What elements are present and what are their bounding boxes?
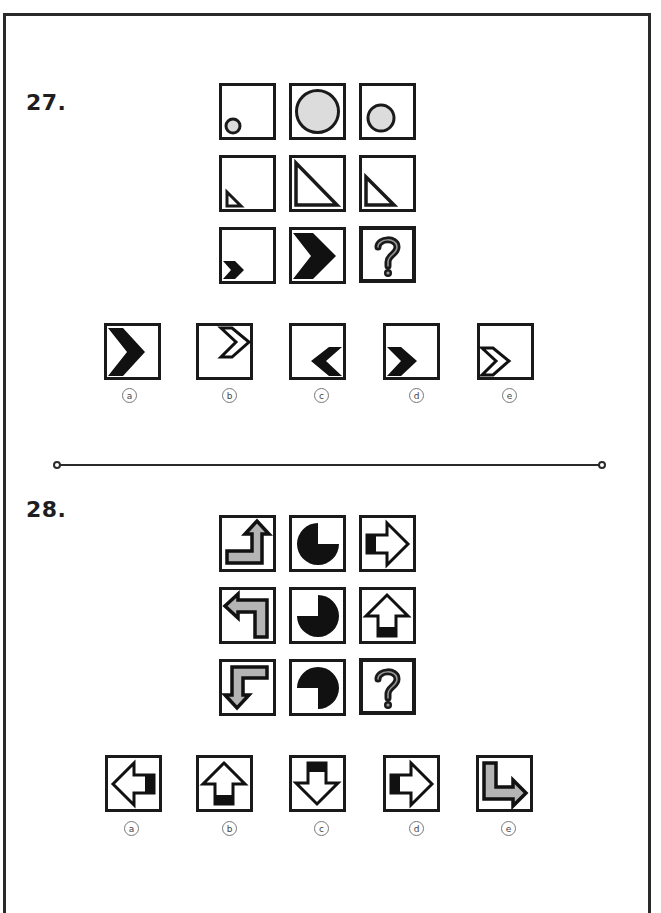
pie-missing-bottom-left-icon <box>289 659 346 716</box>
large-triangle-icon <box>289 155 346 212</box>
q28-cell-r2c3 <box>359 587 416 644</box>
q27-option-c[interactable] <box>289 323 346 380</box>
q28-option-c-label: c <box>314 821 329 836</box>
q28-option-a-label: a <box>124 821 139 836</box>
q27-cell-r3c1 <box>219 227 276 284</box>
q28-option-e-label: e <box>501 821 516 836</box>
bent-arrow-up-icon <box>219 515 276 572</box>
q27-option-b[interactable] <box>196 323 253 380</box>
large-circle-icon <box>289 83 346 140</box>
q27-cell-r1c2 <box>289 83 346 140</box>
arrow-right-icon <box>383 755 440 812</box>
small-circle-icon <box>219 83 276 140</box>
q28-cell-r1c2 <box>289 515 346 572</box>
small-chevron-icon <box>219 227 276 284</box>
bent-arrow-right-icon <box>476 755 533 812</box>
medium-circle-icon <box>359 83 416 140</box>
q28-cell-r3c2 <box>289 659 346 716</box>
q27-cell-r2c2 <box>289 155 346 212</box>
section-divider <box>52 459 608 471</box>
pie-missing-top-left-icon <box>289 587 346 644</box>
pie-missing-top-right-icon <box>289 515 346 572</box>
arrow-down-icon <box>289 755 346 812</box>
question-mark-icon <box>359 658 416 715</box>
outline-small-chevron-icon <box>477 323 534 380</box>
solid-chevron-icon <box>383 323 440 380</box>
arrow-left-icon <box>105 755 162 812</box>
arrow-up-icon <box>359 587 416 644</box>
q27-option-e[interactable] <box>477 323 534 380</box>
q27-cell-r2c3 <box>359 155 416 212</box>
bent-arrow-left-icon <box>219 587 276 644</box>
q27-cell-r2c1 <box>219 155 276 212</box>
arrow-right-icon <box>359 515 416 572</box>
q27-option-a[interactable] <box>104 323 161 380</box>
q27-option-d[interactable] <box>383 323 440 380</box>
q28-option-c[interactable] <box>289 755 346 812</box>
q27-option-d-label: d <box>409 388 424 403</box>
medium-triangle-icon <box>359 155 416 212</box>
q28-option-a[interactable] <box>105 755 162 812</box>
q27-cell-r1c3 <box>359 83 416 140</box>
q28-cell-r2c2 <box>289 587 346 644</box>
q27-cell-r3c2 <box>289 227 346 284</box>
question-28-number: 28. <box>26 497 66 522</box>
q28-cell-r2c1 <box>219 587 276 644</box>
q27-option-e-label: e <box>502 388 517 403</box>
outline-chevron-icon <box>196 323 253 380</box>
q28-option-b-label: b <box>222 821 237 836</box>
q27-option-b-label: b <box>222 388 237 403</box>
left-solid-chevron-icon <box>289 323 346 380</box>
q27-option-c-label: c <box>314 388 329 403</box>
bent-arrow-down-icon <box>219 659 276 716</box>
q28-cell-r3c1 <box>219 659 276 716</box>
question-27-number: 27. <box>26 90 66 115</box>
question-mark-icon <box>359 226 416 283</box>
q27-option-a-label: a <box>122 388 137 403</box>
q28-option-e[interactable] <box>476 755 533 812</box>
small-triangle-icon <box>219 155 276 212</box>
q28-cell-answer-slot <box>359 658 416 715</box>
large-solid-chevron-icon <box>104 323 161 380</box>
q28-cell-r1c3 <box>359 515 416 572</box>
large-chevron-icon <box>289 227 346 284</box>
arrow-up-icon <box>196 755 253 812</box>
q28-option-d[interactable] <box>383 755 440 812</box>
q28-option-b[interactable] <box>196 755 253 812</box>
q27-cell-r1c1 <box>219 83 276 140</box>
q28-option-d-label: d <box>409 821 424 836</box>
q28-cell-r1c1 <box>219 515 276 572</box>
q27-cell-answer-slot <box>359 226 416 283</box>
